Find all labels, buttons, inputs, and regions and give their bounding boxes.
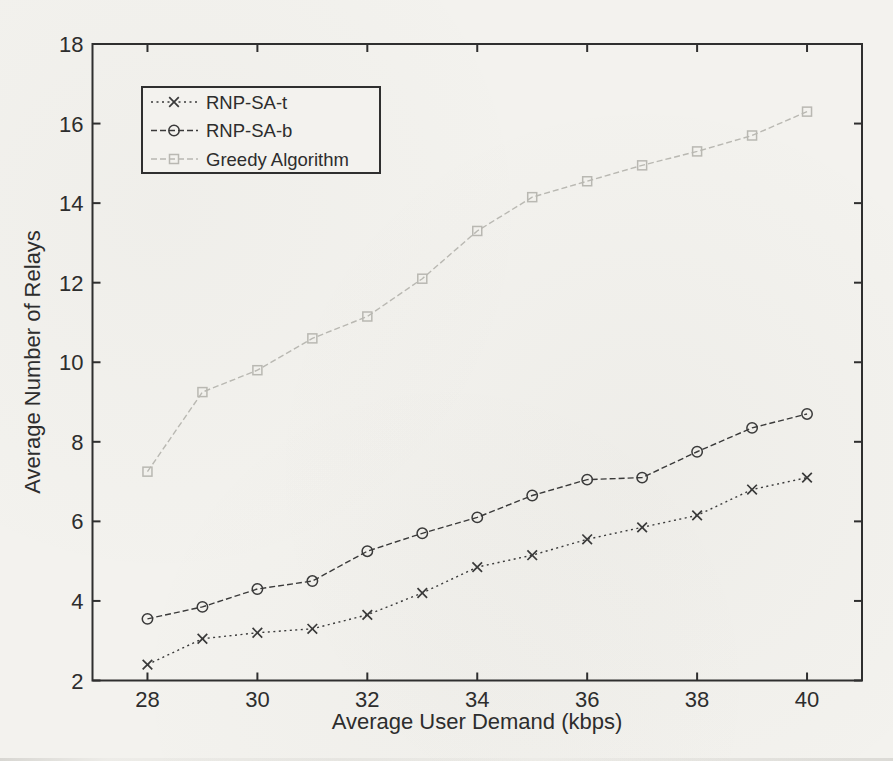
marker-square <box>363 312 372 321</box>
legend-layer: RNP-SA-tRNP-SA-bGreedy Algorithm <box>142 87 380 173</box>
legend-label-rnp-sa-t: RNP-SA-t <box>206 92 287 113</box>
y-tick-label: 12 <box>59 271 83 296</box>
y-axis-label: Average Number of Relays <box>20 230 45 494</box>
x-tick-label: 32 <box>355 687 379 712</box>
y-tick-label: 8 <box>71 430 83 455</box>
marker-x <box>637 523 647 533</box>
y-tick-label: 10 <box>59 350 83 375</box>
marker-x <box>472 562 482 572</box>
x-tick-label: 38 <box>685 687 709 712</box>
marker-x <box>527 550 537 560</box>
series-rnp-sa-b <box>142 409 812 624</box>
marker-x <box>253 628 263 638</box>
marker-x <box>582 534 592 544</box>
x-tick-label: 28 <box>135 687 159 712</box>
marker-x <box>692 511 702 521</box>
marker-square <box>583 177 592 186</box>
x-tick-label: 34 <box>465 687 489 712</box>
series-rnp-sa-t <box>143 473 812 670</box>
marker-x <box>143 660 153 670</box>
series-line-rnp-sa-b <box>147 414 807 619</box>
marker-x <box>308 624 318 634</box>
y-tick-label: 18 <box>59 32 83 57</box>
x-tick-label: 40 <box>795 687 819 712</box>
x-tick-label: 30 <box>245 687 269 712</box>
x-axis-label: Average User Demand (kbps) <box>332 709 623 734</box>
figure-canvas: 2830323436384024681012141618 RNP-SA-tRNP… <box>0 0 893 761</box>
marker-square <box>198 388 207 397</box>
y-tick-label: 2 <box>71 669 83 694</box>
legend-label-greedy-algorithm: Greedy Algorithm <box>206 149 349 170</box>
marker-x <box>417 588 427 598</box>
marker-x <box>747 485 757 495</box>
marker-x <box>363 610 373 620</box>
y-tick-label: 4 <box>71 589 83 614</box>
series-markers-rnp-sa-t <box>143 473 812 670</box>
y-tick-label: 14 <box>59 191 83 216</box>
y-tick-label: 6 <box>71 509 83 534</box>
y-tick-label: 16 <box>59 112 83 137</box>
series-line-rnp-sa-t <box>147 478 807 665</box>
marker-x <box>802 473 812 483</box>
marker-circle <box>362 546 372 556</box>
series-layer <box>142 107 812 669</box>
marker-x <box>198 634 208 644</box>
series-markers-rnp-sa-b <box>142 409 812 624</box>
legend-label-rnp-sa-b: RNP-SA-b <box>206 120 292 141</box>
x-tick-label: 36 <box>575 687 599 712</box>
marker-square <box>748 131 757 140</box>
line-chart: 2830323436384024681012141618 RNP-SA-tRNP… <box>0 0 893 761</box>
